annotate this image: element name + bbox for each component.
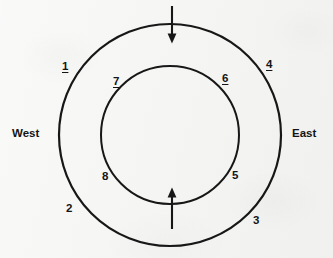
outer-circle bbox=[59, 24, 281, 246]
arrow-bottom-head bbox=[168, 188, 177, 198]
concentric-circles-diagram bbox=[0, 0, 333, 258]
point-label-1: 1 bbox=[62, 61, 68, 73]
point-label-6: 6 bbox=[222, 73, 228, 85]
figure-canvas: West East 1 2 3 4 5 6 7 8 bbox=[0, 0, 333, 258]
point-label-2: 2 bbox=[66, 203, 72, 215]
inner-circle bbox=[101, 66, 239, 204]
point-label-5: 5 bbox=[232, 170, 238, 182]
point-label-4: 4 bbox=[266, 59, 272, 71]
inward-flow-arrow-bottom bbox=[168, 188, 177, 230]
arrow-top-head bbox=[168, 34, 177, 44]
point-label-8: 8 bbox=[102, 171, 108, 183]
direction-label-west: West bbox=[12, 128, 39, 140]
direction-label-east: East bbox=[292, 128, 316, 140]
point-label-3: 3 bbox=[253, 215, 259, 227]
point-label-7: 7 bbox=[113, 76, 119, 88]
